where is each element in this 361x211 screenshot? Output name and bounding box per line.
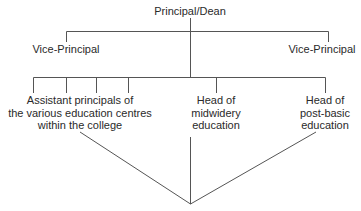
assistant-principals-node: Assistant principals of the various educ… <box>8 94 152 132</box>
assistant-principals-line-2: the various education centres <box>8 107 152 120</box>
principal-dean-node: Principal/Dean <box>154 5 226 18</box>
assistant-principals-line-1: Assistant principals of <box>8 94 152 107</box>
head-post-basic-node: Head of post-basic education <box>300 94 350 132</box>
principal-dean-label: Principal/Dean <box>154 5 226 17</box>
vice-principal-left-label: Vice-Principal <box>32 43 99 55</box>
head-post-basic-line-1: Head of <box>300 94 350 107</box>
head-midwifery-line-3: education <box>191 119 241 132</box>
assistant-principals-line-3: within the college <box>8 119 152 132</box>
vice-principal-right-label: Vice-Principal <box>288 43 355 55</box>
vice-principal-right-node: Vice-Principal <box>288 43 355 56</box>
vice-principal-left-node: Vice-Principal <box>32 43 99 56</box>
head-midwifery-line-2: midwidery <box>191 107 241 120</box>
head-midwifery-line-1: Head of <box>191 94 241 107</box>
head-post-basic-line-2: post-basic <box>300 107 350 120</box>
head-post-basic-line-3: education <box>300 119 350 132</box>
head-midwifery-node: Head of midwidery education <box>191 94 241 132</box>
